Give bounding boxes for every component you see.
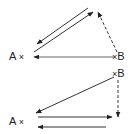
node-b-label: B — [117, 67, 124, 79]
arrow-apex-to-a — [37, 8, 88, 44]
arrow-b-to-a-diagonal — [36, 77, 114, 113]
top-node-a: A × — [9, 51, 24, 62]
diagram-canvas — [0, 0, 130, 134]
node-a-label: A — [9, 50, 16, 62]
bottom-node-b: ×B — [112, 68, 125, 79]
node-a-label: A — [9, 115, 16, 127]
node-a-marker: × — [19, 52, 24, 62]
bottom-node-a: A × — [9, 116, 24, 127]
bottom-diagram — [36, 77, 118, 127]
dashed-arrow-b-to-apex — [98, 12, 117, 52]
top-node-b: ×B — [112, 51, 125, 62]
node-b-label: B — [117, 50, 124, 62]
top-diagram — [34, 8, 117, 57]
node-a-marker: × — [19, 117, 24, 127]
arrow-a-to-apex — [34, 12, 93, 52]
